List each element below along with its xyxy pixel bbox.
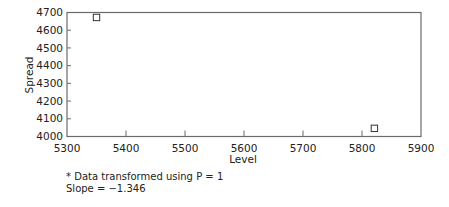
x-tick-label: 5300 — [54, 142, 81, 154]
plot-border — [67, 13, 421, 137]
spread-level-chart: 40004100420043004400450046004700 5300540… — [0, 0, 449, 207]
data-point-square — [93, 14, 99, 20]
x-tick-label: 5500 — [172, 142, 199, 154]
y-tick-label: 4100 — [36, 112, 63, 124]
x-tick-label: 5800 — [349, 142, 376, 154]
plot-frame — [67, 13, 421, 137]
y-tick-label: 4200 — [36, 95, 63, 107]
y-tick-label: 4000 — [36, 130, 63, 142]
data-point-square — [371, 125, 377, 131]
x-axis-ticks: 5300540055005600570058005900 — [54, 131, 435, 154]
y-tick-label: 4700 — [36, 6, 63, 18]
y-axis-ticks: 40004100420043004400450046004700 — [36, 6, 71, 142]
x-tick-label: 5900 — [408, 142, 435, 154]
y-tick-label: 4400 — [36, 59, 63, 71]
x-tick-label: 5400 — [113, 142, 140, 154]
y-tick-label: 4600 — [36, 24, 63, 36]
x-tick-label: 5600 — [231, 142, 258, 154]
y-tick-label: 4500 — [36, 42, 63, 54]
x-axis-label: Level — [229, 153, 257, 165]
y-tick-label: 4300 — [36, 77, 63, 89]
transform-footnote: * Data transformed using P = 1 — [66, 171, 223, 182]
y-axis-label: Spread — [23, 57, 35, 94]
data-points — [93, 14, 377, 131]
slope-footnote: Slope = −1.346 — [66, 183, 146, 194]
x-tick-label: 5700 — [290, 142, 317, 154]
